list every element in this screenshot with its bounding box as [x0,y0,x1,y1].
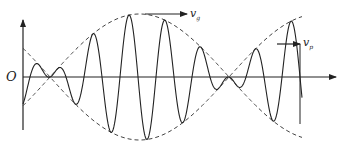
phase-velocity-label: vp [303,36,313,50]
wave-packet-diagram [0,0,345,154]
vp-subscript: p [309,43,313,50]
envelope-upper-dashed [23,14,302,137]
origin-label: O [6,69,17,84]
group-velocity-label: vg [190,7,200,21]
vg-subscript: g [196,14,200,21]
envelope-lower-dashed [23,17,302,140]
